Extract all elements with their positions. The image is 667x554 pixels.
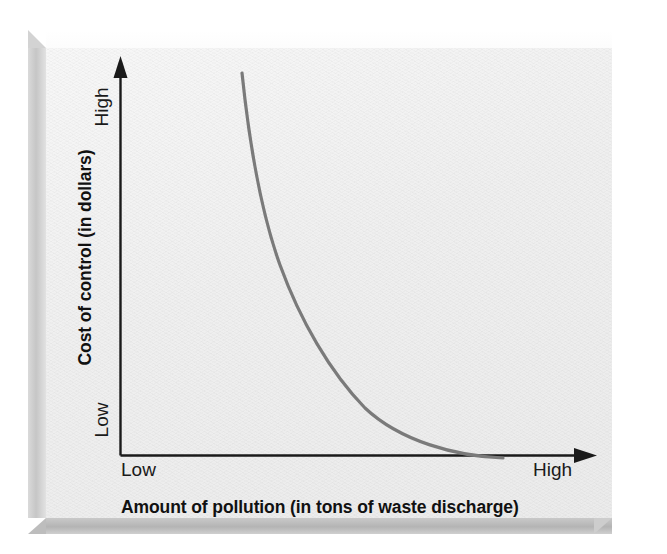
y-axis-title: Cost of control (in dollars)	[75, 128, 96, 388]
x-axis-title: Amount of pollution (in tons of waste di…	[121, 497, 519, 518]
x-axis-tick-high: High	[533, 459, 572, 481]
x-axis-tick-low: Low	[121, 459, 156, 481]
y-axis-tick-high: High	[91, 77, 113, 137]
y-axis-tick-low: Low	[91, 392, 113, 448]
y-axis-arrow-icon	[114, 56, 128, 78]
cost-of-control-curve	[242, 73, 503, 458]
x-axis-arrow-icon	[574, 448, 597, 463]
figure-root: Amount of pollution (in tons of waste di…	[0, 0, 667, 554]
